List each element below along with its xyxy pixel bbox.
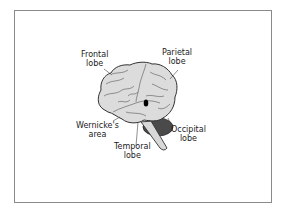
label-wernickes-area: Wernicke's area (76, 122, 119, 139)
label-line: lobe (171, 135, 206, 144)
brain-illustration (0, 0, 288, 216)
label-line: lobe (81, 60, 108, 69)
wernicke-area-marker (144, 100, 149, 107)
label-occipital-lobe: Occipital lobe (171, 126, 206, 143)
label-line: lobe (114, 152, 151, 161)
label-frontal-lobe: Frontal lobe (81, 51, 108, 68)
label-line: lobe (162, 58, 192, 67)
label-line: area (76, 131, 119, 140)
label-temporal-lobe: Temporal lobe (114, 143, 151, 160)
label-parietal-lobe: Parietal lobe (162, 49, 192, 66)
